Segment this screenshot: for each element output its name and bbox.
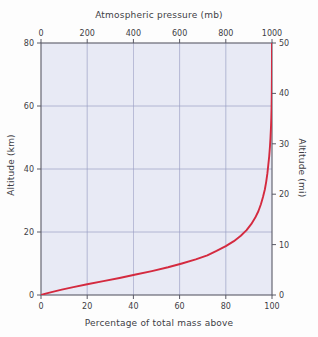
svg-text:800: 800 <box>218 29 233 38</box>
svg-text:30: 30 <box>279 140 289 149</box>
svg-text:60: 60 <box>24 102 34 111</box>
svg-text:60: 60 <box>175 302 185 311</box>
svg-text:80: 80 <box>24 39 34 48</box>
atmosphere-pressure-chart: Atmospheric pressure (mb) Percentage of … <box>0 0 318 337</box>
svg-text:600: 600 <box>172 29 187 38</box>
svg-text:200: 200 <box>80 29 95 38</box>
svg-text:40: 40 <box>279 89 289 98</box>
svg-text:100: 100 <box>264 302 279 311</box>
svg-text:40: 40 <box>128 302 138 311</box>
svg-text:40: 40 <box>24 165 34 174</box>
right-axis-title: Altitude (mi) <box>297 128 307 208</box>
left-axis-title: Altitude (km) <box>6 125 16 205</box>
svg-text:0: 0 <box>279 291 284 300</box>
svg-text:10: 10 <box>279 241 289 250</box>
svg-text:0: 0 <box>29 291 34 300</box>
svg-text:400: 400 <box>126 29 141 38</box>
svg-text:0: 0 <box>38 302 43 311</box>
svg-text:20: 20 <box>24 228 34 237</box>
bottom-axis-title: Percentage of total mass above <box>0 318 318 328</box>
top-axis-title: Atmospheric pressure (mb) <box>0 10 318 20</box>
svg-text:0: 0 <box>38 29 43 38</box>
svg-text:80: 80 <box>221 302 231 311</box>
plot-area: 0204060801000200400600800100002040608001… <box>0 0 318 337</box>
svg-text:20: 20 <box>82 302 92 311</box>
svg-text:20: 20 <box>279 190 289 199</box>
svg-text:1000: 1000 <box>262 29 282 38</box>
svg-text:50: 50 <box>279 39 289 48</box>
